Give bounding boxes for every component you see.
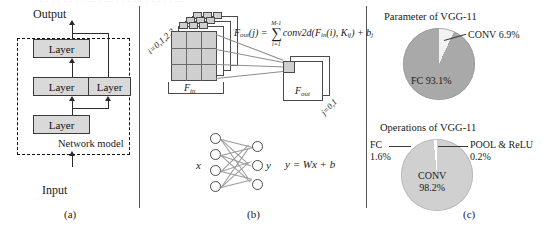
operations-pool-leader-line [438,146,468,147]
operations-pie-title: Operations of VGG-11 [380,123,476,134]
fc-input-node-1 [210,133,221,144]
conv-ray-4 [216,70,288,79]
parameter-pie-chart [403,28,475,100]
operations-pool-label: POOL & ReLU 0.2% [470,139,533,162]
panel-divider-left [139,6,140,208]
fc-output-label: y [266,160,271,171]
layer-box-bottom[interactable]: Layer [33,115,90,134]
input-arrow-head [69,151,75,156]
fc-input-node-2 [210,149,221,160]
skip-out-vertical [108,33,109,77]
kernel-tile-9 [199,22,208,29]
fout-label: Fout [295,86,310,97]
fin-bracket [168,82,224,94]
skip-out-horizontal [72,33,109,34]
fc-output-node-2 [252,160,263,171]
parameter-pie-title: Parameter of VGG-11 [384,12,477,23]
fc-output-node-1 [252,141,263,152]
input-label: Input [42,184,67,196]
panel-c-caption: (c) [463,208,475,220]
fin-label: Fin [184,83,195,94]
input-feature-map-1 [171,31,217,81]
layer-box-middle[interactable]: Layer [33,77,90,96]
operations-fc-label: FC 1.6% [370,139,391,162]
trunk-seg-middle [72,62,73,77]
input-map-gridline-v2 [201,31,202,81]
skip-in-arrow [105,96,111,101]
parameter-fc-label: FC 93.1% [411,75,452,87]
figure-root: · · · · · · · · · · · · · · · · · · · · … [0,0,547,229]
kernel-tile-8 [189,22,198,29]
cut-off-header-text: · · · · · · · · · · · · · · · · · · · · … [40,0,330,4]
operations-conv-label: CONV 98.2% [418,170,446,193]
input-map-gridline-h2 [171,64,217,65]
fc-formula: y = Wx + b [285,159,335,170]
kernel-tile-7 [179,22,188,29]
output-activation-cell [283,61,295,73]
output-arrow-head [69,20,75,25]
panel-a-caption: (a) [64,208,76,220]
trunk-arrow-bottom [69,96,75,101]
fc-input-label: x [196,160,201,171]
layer-box-top[interactable]: Layer [33,39,90,58]
fc-output-node-3 [252,179,263,190]
input-arrow-shaft [72,155,73,167]
conv-formula: Fout(j) = M-1 ∑ i=1 conv2d(Fin(i), Kij) … [234,20,373,47]
parameter-conv-label: CONV 6.9% [468,29,519,41]
input-map-gridline-h1 [171,48,217,49]
output-label: Output [33,8,66,20]
panel-b-caption: (b) [247,208,260,220]
layer-box-skip[interactable]: Layer [88,77,131,96]
trunk-arrow-middle [69,58,75,63]
network-model-label: Network model [58,139,124,150]
skip-in-horizontal [72,108,109,109]
skip-in-vertical [108,100,109,109]
operations-fc-leader-line [389,146,411,147]
input-map-gridline-v1 [186,31,187,81]
